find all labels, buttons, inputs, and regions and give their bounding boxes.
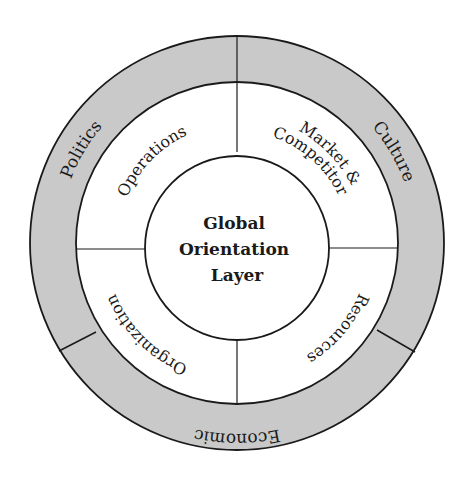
core-label-line-1: Global (203, 213, 265, 233)
core-label-line-3: Layer (211, 265, 265, 285)
global-orientation-diagram: Global Orientation Layer Politics Cultur… (0, 0, 467, 482)
core-label-line-2: Orientation (179, 239, 289, 259)
